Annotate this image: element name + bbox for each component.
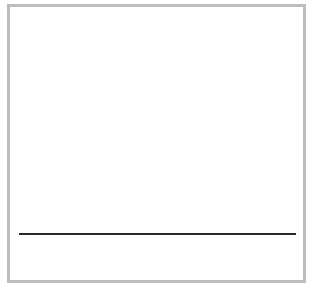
baseline-rule [19, 233, 296, 235]
drawing-area[interactable] [7, 4, 306, 283]
